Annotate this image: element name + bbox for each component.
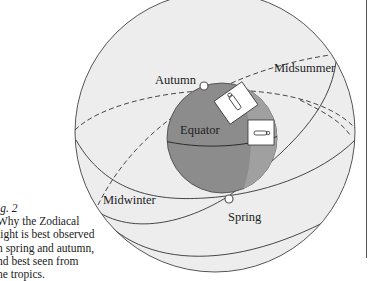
caption-line: he tropics. bbox=[0, 268, 127, 281]
label-midsummer: Midsummer bbox=[274, 62, 335, 75]
spring-marker bbox=[225, 195, 233, 203]
caption-line: n spring and autumn, bbox=[0, 242, 127, 255]
autumn-marker bbox=[200, 82, 208, 90]
figure-caption: ig. 2 Why the Zodiacal light is best obs… bbox=[0, 202, 127, 281]
caption-line: light is best observed bbox=[0, 228, 127, 241]
observer-card-horizontal bbox=[248, 120, 274, 145]
caption-figure-number: ig. 2 bbox=[0, 202, 127, 215]
label-autumn: Autumn bbox=[155, 74, 196, 87]
caption-line: Why the Zodiacal bbox=[0, 215, 127, 228]
label-equator: Equator bbox=[180, 124, 220, 137]
label-spring: Spring bbox=[228, 211, 261, 224]
caption-line: nd best seen from bbox=[0, 255, 127, 268]
page-edge-rule bbox=[366, 0, 367, 258]
